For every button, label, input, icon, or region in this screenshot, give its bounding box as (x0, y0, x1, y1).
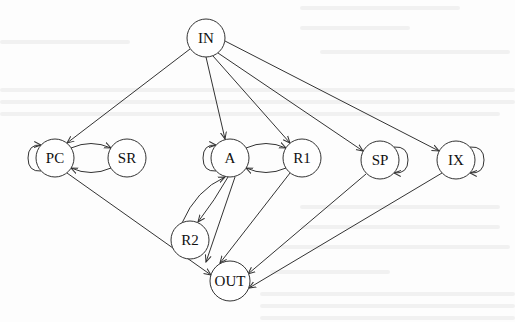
edges (28, 41, 484, 288)
state-transition-diagram: IN PC SR A R1 SP IX R2 (0, 0, 515, 322)
edge-r1-to-out (220, 173, 290, 263)
node-label-r1: R1 (293, 150, 311, 166)
edge-sr-to-pc (71, 168, 111, 173)
edge-r1-to-a (246, 168, 286, 173)
edge-in-to-sp (218, 53, 363, 151)
node-label-in: IN (198, 30, 214, 46)
node-a: A (211, 139, 249, 177)
node-in: IN (187, 19, 225, 57)
node-out: OUT (210, 261, 250, 301)
edge-sp-to-out (248, 174, 366, 274)
edge-in-to-a (206, 57, 225, 139)
node-ix: IX (437, 141, 475, 179)
nodes: IN PC SR A R1 SP IX R2 (36, 19, 475, 301)
node-sr: SR (108, 139, 146, 177)
node-label-sp: SP (372, 152, 389, 168)
edge-in-to-r1 (213, 56, 290, 143)
edge-in-to-pc (67, 49, 190, 143)
edge-a-to-r1 (246, 144, 286, 149)
node-label-sr: SR (118, 150, 136, 166)
edge-in-to-ix (225, 41, 439, 151)
node-label-ix: IX (448, 152, 464, 168)
edge-ix-to-out (249, 173, 442, 288)
node-pc: PC (36, 139, 74, 177)
node-label-pc: PC (46, 150, 64, 166)
edge-r2-to-a (182, 177, 225, 223)
node-label-out: OUT (215, 273, 246, 289)
edge-pc-to-sr (71, 144, 111, 149)
node-r1: R1 (283, 139, 321, 177)
node-label-r2: R2 (181, 232, 199, 248)
node-sp: SP (361, 141, 399, 179)
node-label-a: A (225, 150, 236, 166)
node-r2: R2 (171, 221, 209, 259)
